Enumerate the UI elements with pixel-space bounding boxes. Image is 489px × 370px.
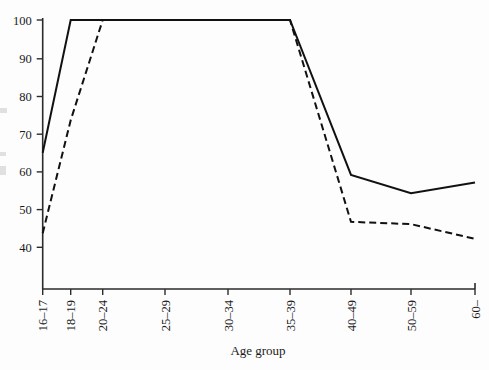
x-tick-label: 16–17 — [36, 300, 50, 331]
series-line-solid-line — [43, 20, 475, 193]
y-axis-ticks: 405060708090100 — [13, 14, 43, 255]
x-tick-label: 40–49 — [345, 300, 359, 331]
y-tick-label: 40 — [19, 241, 32, 255]
cropped-label-fragment — [0, 108, 7, 113]
x-axis-baseline — [43, 283, 475, 289]
x-tick-label: 25–29 — [159, 300, 173, 331]
cropped-label-fragment — [0, 152, 6, 156]
chart-figure: 405060708090100 16–1718–1920–2425–2930–3… — [0, 0, 489, 370]
y-tick-label: 50 — [19, 203, 32, 217]
y-tick-label: 100 — [13, 14, 32, 28]
x-tick-label: 60– — [469, 299, 483, 319]
cropped-y-axis-label — [0, 108, 7, 175]
y-tick-label: 80 — [19, 90, 32, 104]
x-tick-label: 35–39 — [284, 300, 298, 331]
x-axis-title: Age group — [230, 343, 285, 358]
x-tick-label: 20–24 — [96, 299, 110, 331]
x-tick-label: 18–19 — [64, 300, 78, 331]
y-tick-label: 70 — [19, 128, 32, 142]
x-axis-ticks: 16–1718–1920–2425–2930–3435–3940–4950–59… — [36, 289, 482, 331]
cropped-label-fragment — [0, 166, 6, 175]
y-tick-label: 60 — [19, 165, 32, 179]
data-series — [43, 20, 475, 239]
y-tick-label: 90 — [19, 52, 32, 66]
axis-lines — [43, 18, 475, 289]
line-chart-plot: 405060708090100 16–1718–1920–2425–2930–3… — [0, 0, 489, 370]
x-tick-label: 30–34 — [222, 299, 236, 331]
x-tick-label: 50–59 — [405, 300, 419, 331]
series-line-dashed-line — [43, 20, 475, 239]
